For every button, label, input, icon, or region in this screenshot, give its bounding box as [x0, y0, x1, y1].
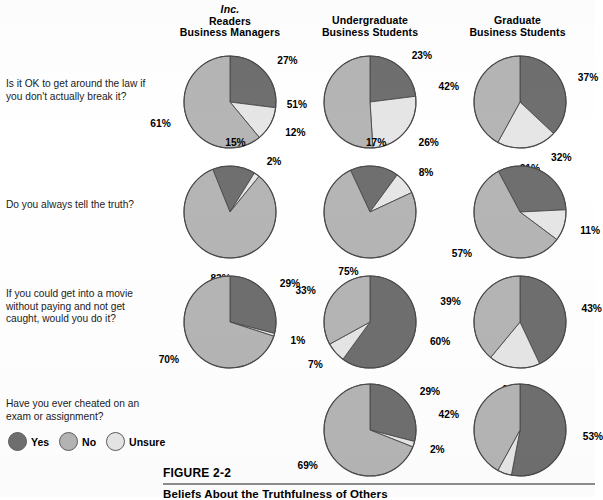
figure-caption-block: FIGURE 2-2 Beliefs About the Truthfulnes…: [163, 466, 595, 500]
legend-swatch-yes: [8, 432, 27, 451]
pie-slice-yes: [230, 56, 276, 108]
pie-slice-no: [324, 56, 373, 148]
pie-chart-r1-c3: 37%21%42%: [440, 46, 600, 158]
question-label-row-1: Is it OK to get around the law if you do…: [6, 78, 146, 103]
pie-value-label-no: 39%: [440, 295, 460, 306]
pie-value-label-yes: 29%: [420, 386, 440, 397]
legend-swatch-unsure: [106, 432, 125, 451]
column-header-line1: Readers: [209, 15, 251, 27]
question-label-row-2: Do you always tell the truth?: [6, 199, 146, 212]
figure-number: FIGURE 2-2: [163, 466, 595, 480]
pie-value-label-yes: 15%: [225, 137, 245, 148]
column-header-line1: Graduate: [494, 14, 541, 26]
legend: Yes No Unsure: [8, 432, 165, 451]
legend-swatch-no: [59, 432, 78, 451]
pie-value-label-yes: 17%: [366, 137, 386, 148]
legend-item-no: No: [59, 432, 96, 451]
figure-title: Beliefs About the Truthfulness of Others: [163, 488, 595, 500]
pie-value-label-unsure: 7%: [308, 358, 323, 369]
pie-value-label-yes: 23%: [412, 49, 432, 60]
pie-value-label-no: 33%: [295, 284, 315, 295]
column-header-line2: Business Students: [469, 26, 565, 38]
question-label-row-4: Have you ever cheated on an exam or assi…: [6, 398, 146, 423]
pie-value-label-unsure: 11%: [580, 225, 600, 236]
legend-label-yes: Yes: [31, 436, 49, 448]
pie-value-label-yes: 37%: [578, 71, 598, 82]
column-header-graduate: Graduate Business Students: [440, 15, 595, 38]
pie-value-label-unsure: 2%: [267, 155, 282, 166]
figure-divider: [163, 483, 595, 485]
pie-chart-r3-c2: 60%7%33%: [290, 266, 450, 378]
legend-item-yes: Yes: [8, 432, 49, 451]
pie-value-label-yes: 53%: [583, 430, 603, 441]
legend-item-unsure: Unsure: [106, 432, 165, 451]
pie-slice-yes: [370, 56, 416, 102]
column-header-line2: Business Students: [322, 26, 418, 38]
pie-value-label-yes: 43%: [581, 303, 601, 314]
column-header-undergraduate: Undergraduate Business Students: [290, 15, 450, 38]
pie-chart-r3-c3: 43%18%39%: [440, 266, 600, 378]
legend-label-no: No: [82, 436, 96, 448]
pie-value-label-unsure: 8%: [419, 167, 434, 178]
pie-value-label-no: 42%: [439, 81, 459, 92]
pie-chart-r2-c3: 32%11%57%: [440, 156, 600, 268]
pie-chart-r2-c2: 17%8%75%: [290, 156, 450, 268]
column-header-inc-readers: Inc. Readers Business Managers: [150, 4, 310, 39]
column-header-line2: Business Managers: [180, 26, 280, 38]
column-header-line1: Undergraduate: [332, 14, 408, 26]
pie-value-label-no: 51%: [287, 98, 307, 109]
pie-chart-r2-c1: 15%2%83%: [150, 156, 310, 268]
pie-value-label-no: 57%: [452, 247, 472, 258]
legend-label-unsure: Unsure: [129, 436, 165, 448]
question-label-row-3: If you could get into a movie without pa…: [6, 288, 146, 326]
pie-chart-r3-c1: 29%1%70%: [150, 266, 310, 378]
pie-value-label-no: 61%: [150, 118, 170, 129]
pie-value-label-no: 42%: [439, 409, 459, 420]
pie-value-label-yes: 32%: [551, 152, 571, 163]
pie-value-label-unsure: 26%: [419, 137, 439, 148]
pie-value-label-no: 70%: [159, 354, 179, 365]
